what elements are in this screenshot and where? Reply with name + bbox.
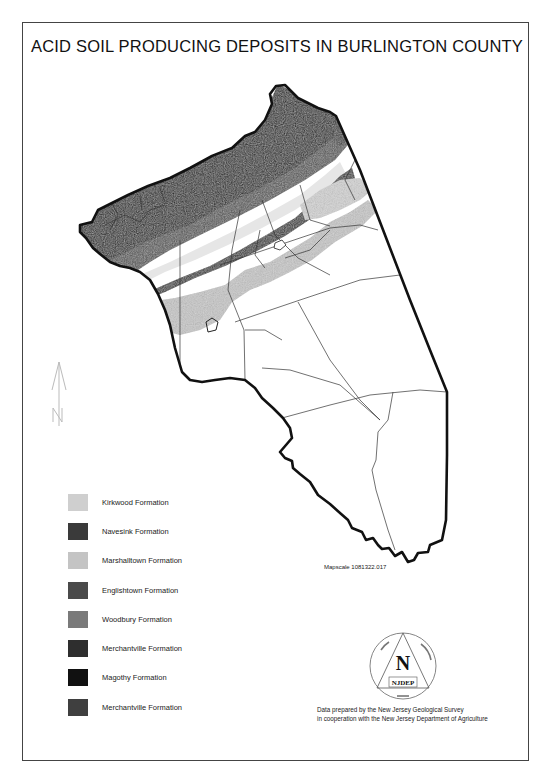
legend-item-woodbury: Woodbury Formation <box>68 609 172 629</box>
legend-swatch <box>68 582 88 599</box>
credit-line-2: in cooperation with the New Jersey Depar… <box>317 714 488 723</box>
legend-swatch <box>68 699 88 716</box>
credit-line-1: Data prepared by the New Jersey Geologic… <box>317 705 488 714</box>
legend-swatch <box>68 640 88 657</box>
legend-swatch <box>68 611 88 628</box>
logo-letter: N <box>396 652 411 674</box>
data-credit: Data prepared by the New Jersey Geologic… <box>317 705 488 723</box>
legend-label: Marshalltown Formation <box>102 556 182 565</box>
legend-swatch <box>68 494 88 511</box>
legend-swatch <box>68 552 88 569</box>
mapscale-label: Mapscale 1081322.017 <box>324 564 386 570</box>
north-arrow-icon <box>44 360 74 432</box>
legend-item-merchantville-2: Merchantville Formation <box>68 697 182 717</box>
legend-item-magothy: Magothy Formation <box>68 667 167 687</box>
legend-item-navesink: Navesink Formation <box>68 521 169 541</box>
legend-label: Kirkwood Formation <box>102 498 169 507</box>
legend-label: Navesink Formation <box>102 527 169 536</box>
legend-label: Woodbury Formation <box>102 615 172 624</box>
njdep-logo-icon: N NJDEP <box>367 630 439 702</box>
legend-item-marshalltown: Marshalltown Formation <box>68 550 182 570</box>
legend-swatch <box>68 523 88 540</box>
legend-item-englishtown: Englishtown Formation <box>68 580 178 600</box>
legend-label: Magothy Formation <box>102 673 167 682</box>
legend-label: Merchantville Formation <box>102 703 182 712</box>
legend-label: Merchantville Formation <box>102 644 182 653</box>
legend-label: Englishtown Formation <box>102 586 178 595</box>
legend-swatch <box>68 669 88 686</box>
legend-item-merchantville: Merchantville Formation <box>68 638 182 658</box>
legend-item-kirkwood: Kirkwood Formation <box>68 492 169 512</box>
logo-agency: NJDEP <box>392 679 415 687</box>
